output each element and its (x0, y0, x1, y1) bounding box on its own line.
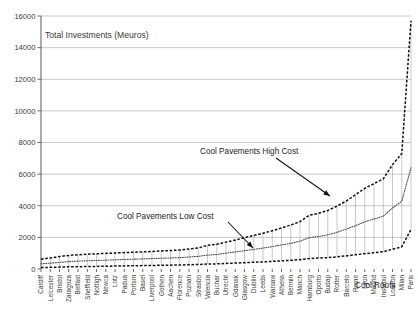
x-tick-label: Sheffield (84, 275, 91, 300)
y-tick-label: 16000 (14, 12, 35, 21)
y-tick-label: 0 (31, 265, 35, 274)
y-tick-label: 8000 (19, 138, 36, 147)
y-tick-label: 2000 (19, 233, 36, 242)
investments-line-chart: 0200040006000800010000120001400016000Car… (0, 0, 418, 324)
x-tick-label: Florence (176, 275, 183, 300)
x-tick-label: Athens (278, 275, 285, 295)
plot-title: Total Investments (Meuros) (45, 30, 149, 40)
x-tick-label: Valencia (204, 275, 211, 299)
x-tick-label: Manch (296, 275, 303, 295)
x-tick-label: Poznan (185, 275, 192, 297)
x-tick-label: Aachen (167, 275, 174, 297)
x-tick-label: Paris (407, 275, 414, 290)
x-tick-label: Nottigh (93, 275, 101, 296)
chart-container: 0200040006000800010000120001400016000Car… (0, 0, 418, 324)
x-tick-label: Portsm (130, 275, 137, 295)
x-tick-label: Barcelo (343, 275, 350, 297)
x-tick-label: Rotter (333, 274, 340, 292)
x-tick-label: Belfast (74, 275, 81, 295)
x-tick-label: Leicester (47, 274, 54, 301)
annotation-label-3: Cool Roofs (355, 281, 396, 290)
x-tick-label: Zaragoza (65, 275, 73, 302)
y-tick-label: 6000 (19, 170, 36, 179)
x-tick-label: Oporto (315, 275, 323, 295)
x-tick-label: Buchar (213, 274, 220, 295)
x-tick-label: Budap (324, 275, 332, 294)
x-tick-label: Lotz (111, 275, 118, 287)
y-tick-label: 14000 (14, 43, 35, 52)
y-tick-label: 4000 (19, 202, 36, 211)
x-tick-label: Padua (121, 275, 128, 294)
annotation-label-2: Cool Pavements Low Cost (117, 212, 214, 221)
x-tick-label: Gothen (158, 275, 165, 296)
y-tick-label: 12000 (14, 75, 35, 84)
x-tick-label: Milan (398, 275, 405, 291)
x-tick-label: Glasgow (241, 275, 249, 300)
x-tick-label: Dublin (250, 275, 257, 294)
x-tick-label: Cardiff (37, 275, 44, 294)
annotation-label-1: Cool Pavements High Cost (200, 147, 299, 156)
x-tick-label: Utrecht (222, 275, 229, 296)
x-tick-label: Bristol (56, 275, 63, 293)
y-tick-label: 10000 (14, 107, 35, 116)
x-tick-label: Liverpool (148, 275, 156, 301)
x-tick-label: Leeds (259, 275, 266, 292)
x-tick-label: Bermin (287, 275, 294, 296)
x-tick-label: Basel (139, 275, 146, 291)
x-tick-label: Newca (102, 275, 109, 295)
x-tick-label: Warsaw (269, 275, 276, 298)
x-tick-label: Strasbo (195, 275, 202, 297)
x-tick-label: Gdansk (232, 274, 239, 297)
x-tick-label: Hamburg (306, 275, 314, 302)
